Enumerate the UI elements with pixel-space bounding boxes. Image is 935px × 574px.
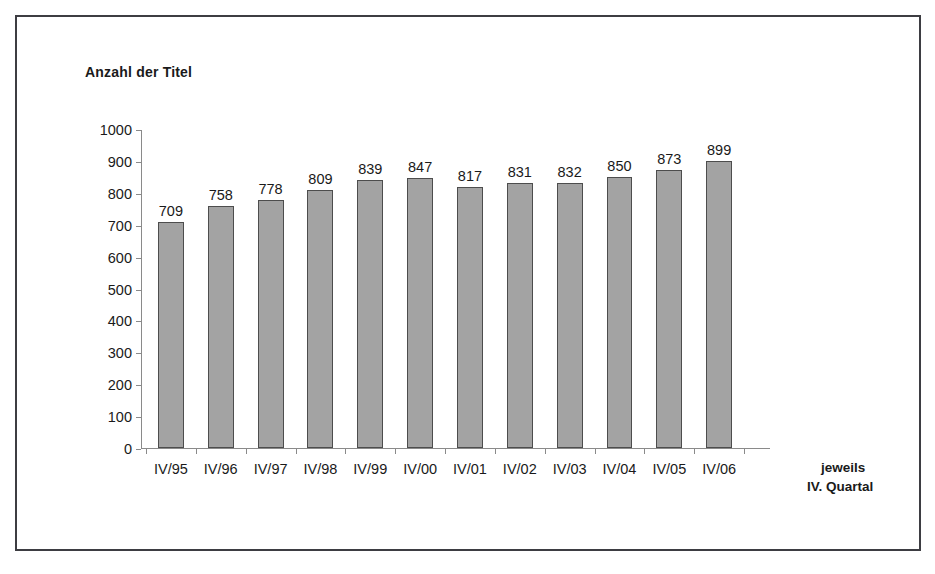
x-axis-caption-line-1: jeweils	[807, 458, 873, 477]
x-axis-label: IV/06	[702, 461, 736, 477]
y-axis-tick-label: 800	[108, 186, 132, 202]
x-axis-label: IV/98	[303, 461, 337, 477]
bar	[507, 183, 533, 448]
x-axis-tick	[146, 449, 147, 454]
bar	[557, 183, 583, 448]
x-axis-caption-line-2: IV. Quartal	[807, 477, 873, 496]
y-axis-tick-label: 400	[108, 313, 132, 329]
bar-value-label: 778	[258, 181, 282, 197]
y-axis-tick-label: 100	[108, 409, 132, 425]
x-axis-label: IV/99	[353, 461, 387, 477]
x-axis-tick	[495, 449, 496, 454]
x-axis-tick	[694, 449, 695, 454]
x-axis-label: IV/97	[254, 461, 288, 477]
x-axis-label: IV/96	[204, 461, 238, 477]
x-axis-tick	[744, 449, 745, 454]
y-axis-tick-label: 500	[108, 282, 132, 298]
bar	[208, 206, 234, 448]
bar-value-label: 758	[209, 187, 233, 203]
y-axis-tick-label: 600	[108, 250, 132, 266]
y-axis-tick-label: 1000	[100, 122, 132, 138]
x-axis-tick	[395, 449, 396, 454]
y-axis-tick-label: 0	[124, 441, 132, 457]
y-axis-tick	[136, 449, 141, 450]
y-axis-tick	[136, 130, 141, 131]
y-axis-line	[141, 130, 142, 449]
x-axis-tick	[296, 449, 297, 454]
y-axis-tick	[136, 417, 141, 418]
bar-value-label: 832	[558, 164, 582, 180]
bar-value-label: 831	[508, 164, 532, 180]
y-axis-tick	[136, 226, 141, 227]
y-axis-tick	[136, 385, 141, 386]
y-axis-tick-label: 200	[108, 377, 132, 393]
x-axis-tick	[595, 449, 596, 454]
x-axis-label: IV/95	[154, 461, 188, 477]
bar-value-label: 850	[607, 158, 631, 174]
x-axis-tick	[196, 449, 197, 454]
x-axis-tick	[345, 449, 346, 454]
x-axis-label: IV/05	[652, 461, 686, 477]
bar	[656, 170, 682, 448]
chart-frame: Anzahl der Titel 10009008007006005004003…	[15, 15, 921, 551]
bar	[607, 177, 633, 448]
plot-area: 10009008007006005004003002001000 7097587…	[141, 130, 770, 449]
x-axis-tick	[445, 449, 446, 454]
x-axis-label: IV/02	[503, 461, 537, 477]
y-axis-tick-label: 300	[108, 345, 132, 361]
bar	[457, 187, 483, 448]
bar-value-label: 839	[358, 161, 382, 177]
x-axis-label: IV/04	[603, 461, 637, 477]
y-axis-tick	[136, 162, 141, 163]
y-axis-tick	[136, 258, 141, 259]
bar	[158, 222, 184, 448]
x-axis-tick	[545, 449, 546, 454]
y-axis-tick-label: 900	[108, 154, 132, 170]
y-axis-tick	[136, 321, 141, 322]
x-axis-caption: jeweils IV. Quartal	[807, 458, 873, 496]
bar-value-label: 847	[408, 159, 432, 175]
chart-title: Anzahl der Titel	[85, 64, 192, 80]
x-axis-label: IV/00	[403, 461, 437, 477]
x-axis-label: IV/01	[453, 461, 487, 477]
y-axis-tick	[136, 353, 141, 354]
bar-value-label: 899	[707, 142, 731, 158]
bar	[307, 190, 333, 448]
y-axis-tick	[136, 194, 141, 195]
bar-value-label: 709	[159, 203, 183, 219]
x-axis-label: IV/03	[553, 461, 587, 477]
x-axis-line	[141, 448, 770, 449]
x-axis-tick	[644, 449, 645, 454]
y-axis-tick	[136, 290, 141, 291]
bar	[407, 178, 433, 448]
bar	[357, 180, 383, 448]
bar-value-label: 817	[458, 168, 482, 184]
x-axis-tick	[246, 449, 247, 454]
bar	[706, 161, 732, 448]
y-axis-tick-label: 700	[108, 218, 132, 234]
bar	[258, 200, 284, 448]
bar-value-label: 809	[308, 171, 332, 187]
bar-value-label: 873	[657, 151, 681, 167]
